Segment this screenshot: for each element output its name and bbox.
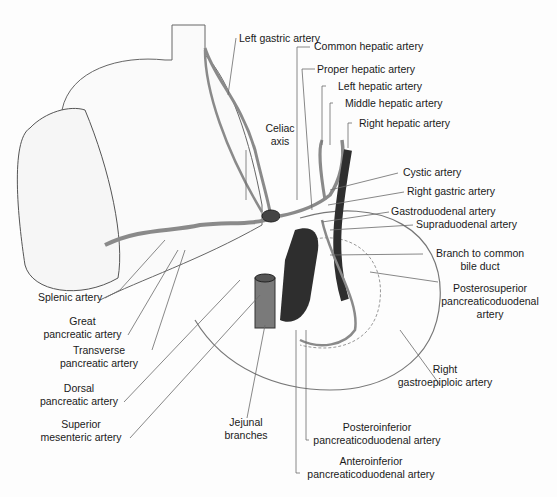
label-right-gastroepiploic-artery: Right gastroepiploic artery [390, 363, 500, 389]
label-branch-to-common-bile-duct: Branch to common bile duct [420, 247, 540, 273]
portal-vein [280, 228, 318, 322]
label-splenic-artery: Splenic artery [38, 291, 102, 304]
label-supraduodenal-artery: Supraduodenal artery [416, 218, 517, 231]
label-jejunal-branches: Jejunal branches [218, 416, 274, 442]
label-right-hepatic-artery: Right hepatic artery [359, 117, 450, 130]
label-left-hepatic-artery: Left hepatic artery [338, 80, 422, 93]
label-anteroinferior-pd-artery: Anteroinferior pancreaticoduodenal arter… [306, 455, 436, 481]
label-left-gastric-artery: Left gastric artery [239, 32, 320, 45]
label-proper-hepatic-artery: Proper hepatic artery [317, 63, 415, 76]
label-transverse-pancreatic-artery: Transverse pancreatic artery [58, 344, 140, 370]
label-posterosuperior-pd-artery: Posterosuperior pancreaticoduodenal arte… [425, 282, 555, 321]
label-celiac-axis: Celiac axis [252, 122, 308, 148]
label-superior-mesenteric-artery: Superior mesenteric artery [38, 418, 124, 444]
label-gastroduodenal-artery: Gastroduodenal artery [391, 205, 495, 218]
label-great-pancreatic-artery: Great pancreatic artery [40, 315, 125, 341]
label-right-gastric-artery: Right gastric artery [407, 185, 495, 198]
superior-mesenteric-vessel [255, 278, 275, 328]
label-posteroinferior-pd-artery: Posteroinferior pancreaticoduodenal arte… [312, 421, 442, 447]
celiac-axis-vessel [262, 210, 280, 222]
label-middle-hepatic-artery: Middle hepatic artery [345, 97, 442, 110]
anatomy-figure: Left gastric artery Common hepatic arter… [0, 0, 557, 497]
label-cystic-artery: Cystic artery [403, 166, 461, 179]
label-common-hepatic-artery: Common hepatic artery [314, 40, 423, 53]
label-dorsal-pancreatic-artery: Dorsal pancreatic artery [36, 382, 122, 408]
